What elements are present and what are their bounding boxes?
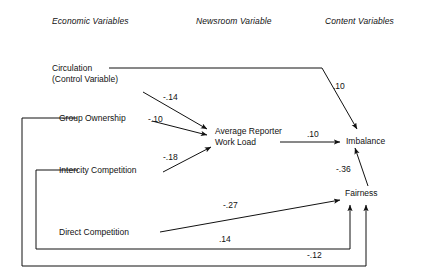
node-work-load-line1: Average Reporter (215, 126, 282, 137)
coefficient-fairness-imbalance: -.36 (336, 164, 351, 174)
node-circulation: Circulation (Control Variable) (52, 63, 118, 85)
coefficient-group-ownership-workload: -.10 (148, 114, 163, 124)
column-header-content: Content Variables (325, 16, 394, 26)
path-diagram-figure: Economic Variables Newsroom Variable Con… (0, 0, 432, 277)
edge-circulation-imbalance (109, 68, 357, 129)
coefficient-direct-competition-fairness: -.27 (223, 200, 238, 210)
node-work-load-line2: Work Load (215, 137, 282, 148)
column-header-newsroom: Newsroom Variable (196, 16, 272, 26)
coefficient-circulation-workload: -.14 (163, 92, 178, 102)
node-direct-competition: Direct Competition (59, 227, 129, 238)
node-fairness: Fairness (345, 188, 378, 199)
node-circulation-line1: Circulation (52, 63, 118, 74)
column-header-economic: Economic Variables (52, 16, 129, 26)
node-imbalance: Imbalance (346, 136, 385, 147)
coefficient-intercity-competition-fairness: .14 (219, 234, 231, 244)
edge-group-ownership-fairness (22, 118, 366, 266)
node-work-load: Average Reporter Work Load (215, 126, 282, 148)
coefficient-workload-imbalance: .10 (307, 129, 319, 139)
coefficient-intercity-competition-workload: -.18 (163, 152, 178, 162)
edge-fairness-imbalance (355, 148, 368, 186)
edge-direct-competition-fairness (160, 200, 340, 232)
node-circulation-line2: (Control Variable) (52, 74, 118, 85)
node-intercity-competition: Intercity Competition (59, 165, 136, 176)
coefficient-group-ownership-fairness: -.12 (307, 250, 322, 260)
node-group-ownership: Group Ownership (59, 113, 126, 124)
coefficient-circulation-imbalance: .10 (333, 81, 345, 91)
